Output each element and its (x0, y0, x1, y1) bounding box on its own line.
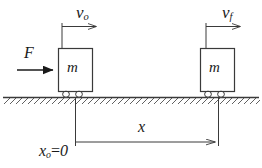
velocity-initial-vector (62, 23, 96, 48)
ground-hatching (4, 98, 260, 104)
wheel-icon (218, 91, 225, 97)
velocity-final-subscript: f (230, 11, 233, 22)
velocity-initial-subscript: o (84, 11, 89, 22)
origin-subscript: o (46, 149, 51, 160)
mass-label-final: m (209, 60, 220, 75)
origin-label: xo=0 (39, 143, 68, 159)
origin-equals: = (51, 142, 60, 159)
velocity-initial-label: vo (76, 4, 89, 21)
velocity-final-symbol: v (222, 3, 230, 22)
displacement-label: x (138, 119, 145, 135)
mass-label-initial: m (67, 60, 78, 75)
velocity-initial-symbol: v (76, 3, 84, 22)
origin-value: 0 (60, 142, 68, 159)
force-label: F (24, 45, 34, 61)
physics-diagram: vo vf F m m x xo=0 (0, 0, 262, 168)
wheel-icon (76, 91, 83, 97)
wheel-icon (205, 91, 212, 97)
ground-surface (3, 98, 260, 105)
wheel-icon (63, 91, 70, 97)
displacement-dimension (76, 98, 219, 146)
velocity-final-label: vf (222, 4, 232, 21)
velocity-final-vector (206, 23, 240, 48)
